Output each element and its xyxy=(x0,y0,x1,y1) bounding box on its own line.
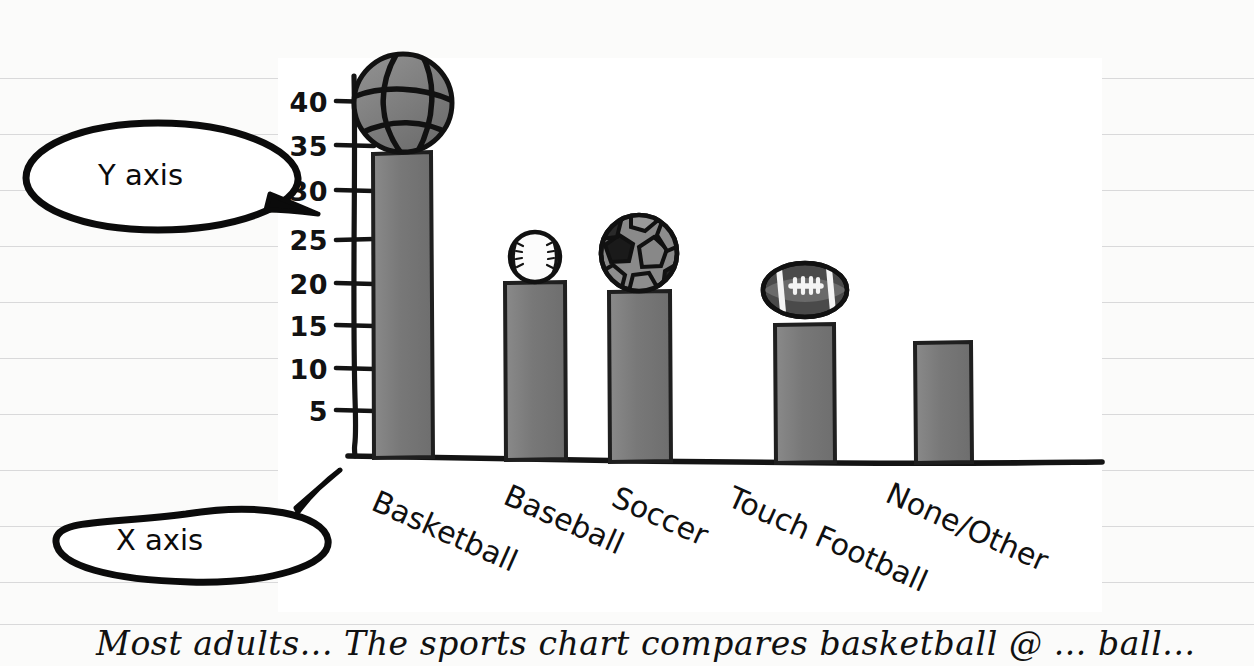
bar-baseball[interactable] xyxy=(505,282,566,460)
y-tick-label-20: 20 xyxy=(289,269,328,300)
y-tick-label-10: 10 xyxy=(289,354,328,385)
bar-none-other[interactable] xyxy=(915,342,972,463)
bar-soccer[interactable] xyxy=(609,291,671,462)
bars-group xyxy=(373,152,972,463)
bar-touch-football[interactable] xyxy=(775,324,835,463)
bottom-handwritten-note: Most adults... The sports chart compares… xyxy=(96,624,1196,663)
y-tick-label-5: 5 xyxy=(309,396,328,427)
baseball-icon xyxy=(510,231,560,283)
bar-basketball[interactable] xyxy=(373,152,433,458)
y-tick-35 xyxy=(336,145,374,146)
x-axis xyxy=(348,456,1102,463)
bar-chart: 40 35 30 25 20 15 10 5 Basketball Baseba… xyxy=(278,58,1102,612)
x-axis-callout-label: X axis xyxy=(116,523,203,557)
y-tick-10 xyxy=(336,368,374,369)
chart-card: 40 35 30 25 20 15 10 5 Basketball Baseba… xyxy=(278,58,1102,612)
soccer-ball-icon xyxy=(595,207,687,297)
basketball-icon xyxy=(353,53,453,153)
y-tick-30 xyxy=(336,190,374,191)
y-tick-label-15: 15 xyxy=(289,311,328,342)
y-tick-25 xyxy=(336,239,374,240)
y-tick-15 xyxy=(336,325,374,326)
y-tick-20 xyxy=(336,283,374,284)
y-tick-5 xyxy=(336,410,374,411)
football-icon xyxy=(763,263,847,317)
y-axis-callout-label: Y axis xyxy=(98,158,183,192)
y-tick-label-40: 40 xyxy=(289,87,328,118)
